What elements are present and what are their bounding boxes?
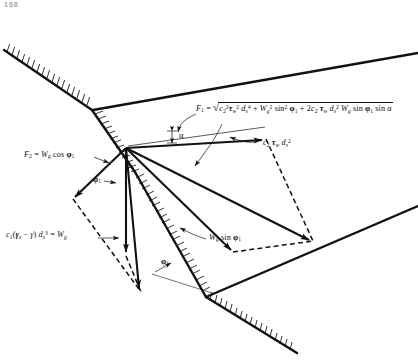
- figure-container: 168: [0, 0, 418, 362]
- tangential-weight-label: Wg sin φ1: [209, 233, 241, 243]
- shear-force-label: c2 τw ds2: [263, 138, 291, 148]
- resultant-force-vector: [126, 148, 309, 240]
- bank-lines: [4, 50, 418, 353]
- angle-alpha-label: α: [179, 131, 184, 141]
- submerged-weight-equation: c1(γs − γ) ds3 = Wg: [6, 230, 67, 240]
- construction-dashed-lines: [73, 139, 313, 292]
- angle-phi1-lower-label: φ1: [161, 257, 169, 267]
- force-diagram-svg: [0, 0, 418, 362]
- angle-phi1-upper-label: φ1: [93, 175, 101, 185]
- force-vectors: [75, 140, 309, 288]
- normal-force-vector: [75, 148, 126, 197]
- normal-force-equation: F2 = Wg cos φ1: [24, 150, 75, 160]
- resultant-force-equation: F1 = √c22τw2 ds4 + Wg2 sin2 φ1 + 2c2 τw …: [196, 101, 393, 114]
